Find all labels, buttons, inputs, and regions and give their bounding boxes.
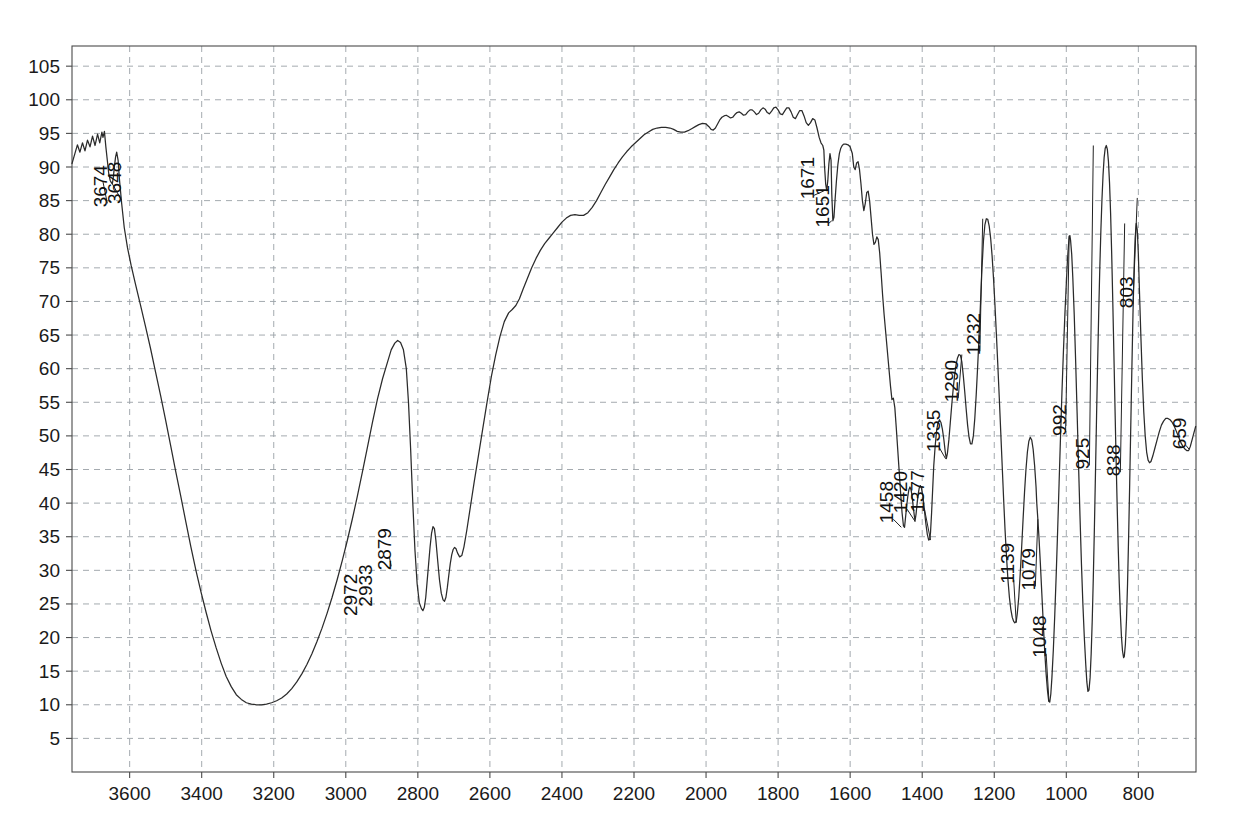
- x-tick-label: 2600: [469, 783, 511, 804]
- peak-label: 1139: [997, 543, 1018, 584]
- peak-label: 2933: [355, 564, 376, 606]
- x-tick-label: 1200: [973, 783, 1015, 804]
- peak-label: 3648: [104, 162, 125, 204]
- y-tick-label: 50: [39, 425, 60, 446]
- x-tick-label: 2200: [613, 783, 655, 804]
- x-tick-label: 1600: [829, 783, 871, 804]
- y-tick-label: 105: [28, 56, 60, 77]
- peak-label: 1079: [1018, 548, 1039, 590]
- peak-leader-line: [1014, 580, 1017, 623]
- x-tick-label: 2400: [541, 783, 583, 804]
- gridlines-group: [72, 46, 1196, 772]
- y-tick-label: 15: [39, 661, 60, 682]
- y-tick-label: 20: [39, 627, 60, 648]
- x-tick-label: 3000: [325, 783, 367, 804]
- x-tick-label: 3400: [181, 783, 223, 804]
- y-tick-label: 85: [39, 190, 60, 211]
- spectrum-trace: [72, 107, 1196, 705]
- x-tick-label: 1000: [1045, 783, 1087, 804]
- y-tick-label: 90: [39, 157, 60, 178]
- x-tick-label: 2000: [685, 783, 727, 804]
- spectrum-trace-group: [72, 107, 1196, 705]
- y-tick-label: 80: [39, 224, 60, 245]
- y-tick-label: 35: [39, 526, 60, 547]
- peak-label: 803: [1116, 276, 1137, 308]
- peak-label: 925: [1072, 438, 1093, 470]
- y-axis-tick-labels: 5101520253035404550556065707580859095100…: [28, 56, 60, 749]
- peak-label: 659: [1169, 418, 1190, 450]
- peak-leader-line: [1120, 223, 1124, 472]
- peak-label: 1377: [907, 470, 928, 512]
- x-tick-label: 2800: [397, 783, 439, 804]
- y-tick-label: 10: [39, 694, 60, 715]
- x-tick-label: 3200: [253, 783, 295, 804]
- y-tick-label: 45: [39, 459, 60, 480]
- x-tick-label: 800: [1123, 783, 1155, 804]
- y-tick-label: 25: [39, 593, 60, 614]
- spectrum-plot-area: 5101520253035404550556065707580859095100…: [0, 0, 1240, 840]
- peak-label: 1335: [923, 410, 944, 452]
- y-tick-label: 95: [39, 123, 60, 144]
- y-tick-label: 65: [39, 325, 60, 346]
- peak-leader-line: [1089, 145, 1093, 465]
- y-tick-label: 40: [39, 493, 60, 514]
- y-tick-label: 5: [49, 728, 60, 749]
- ir-spectrum-chart: 5101520253035404550556065707580859095100…: [0, 0, 1240, 840]
- x-tick-label: 3600: [109, 783, 151, 804]
- peak-label: 1651: [812, 185, 833, 227]
- y-tick-label: 100: [28, 89, 60, 110]
- peak-label: 2879: [374, 528, 395, 570]
- peak-annotations-group: 3674364829722933287916711651145814201377…: [90, 145, 1190, 702]
- x-tick-label: 1800: [757, 783, 799, 804]
- y-tick-label: 70: [39, 291, 60, 312]
- y-tick-label: 75: [39, 257, 60, 278]
- x-tick-label: 1400: [901, 783, 943, 804]
- x-axis-tick-labels: 3600340032003000280026002400220020001800…: [109, 783, 1155, 804]
- peak-label: 838: [1103, 445, 1124, 477]
- y-tick-label: 55: [39, 392, 60, 413]
- peak-label: 1290: [941, 360, 962, 402]
- y-tick-label: 60: [39, 358, 60, 379]
- peak-label: 1048: [1029, 615, 1050, 657]
- peak-label: 1232: [963, 313, 984, 355]
- peak-label: 992: [1049, 404, 1070, 436]
- y-tick-label: 30: [39, 560, 60, 581]
